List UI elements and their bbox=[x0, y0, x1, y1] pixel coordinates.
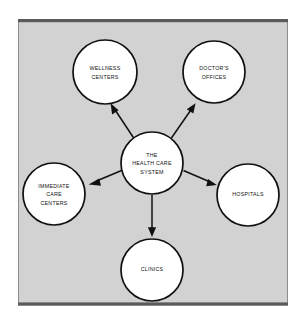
node-doctors-offices[interactable]: DOCTOR'S OFFICES bbox=[183, 41, 245, 103]
node-hospitals-label-line1: HOSPITALS bbox=[232, 191, 264, 197]
panel-bottom-rule bbox=[18, 302, 288, 305]
node-health-care-system-label-line3: SYSTEM bbox=[140, 169, 163, 175]
node-wellness-centers[interactable]: WELLNESS CENTERS bbox=[73, 40, 137, 104]
node-hospitals[interactable]: HOSPITALS bbox=[217, 164, 279, 226]
node-immediate-care-centers-label-line1: IMMEDIATE bbox=[38, 183, 70, 189]
node-immediate-care-centers-label-line2: CARE bbox=[46, 191, 62, 197]
node-immediate-care-centers[interactable]: IMMEDIATE CARE CENTERS bbox=[23, 163, 85, 225]
node-wellness-centers-circle[interactable] bbox=[73, 40, 137, 104]
health-care-system-diagram: WELLNESS CENTERS DOCTOR'S OFFICES THE HE… bbox=[0, 0, 305, 327]
panel-top-rule bbox=[18, 19, 288, 22]
node-clinics[interactable]: CLINICS bbox=[121, 239, 183, 301]
node-doctors-offices-circle[interactable] bbox=[183, 41, 245, 103]
node-health-care-system[interactable]: THE HEALTH CARE SYSTEM bbox=[121, 132, 183, 194]
node-health-care-system-label-line2: HEALTH CARE bbox=[132, 160, 172, 166]
node-wellness-centers-label-line2: CENTERS bbox=[91, 74, 118, 80]
node-clinics-label-line1: CLINICS bbox=[141, 266, 164, 272]
node-doctors-offices-label-line1: DOCTOR'S bbox=[199, 65, 229, 71]
node-health-care-system-label-line1: THE bbox=[146, 152, 158, 158]
node-wellness-centers-label-line1: WELLNESS bbox=[90, 65, 121, 71]
figure-root: WELLNESS CENTERS DOCTOR'S OFFICES THE HE… bbox=[0, 0, 305, 327]
node-doctors-offices-label-line2: OFFICES bbox=[202, 74, 227, 80]
node-immediate-care-centers-label-line3: CENTERS bbox=[40, 200, 67, 206]
